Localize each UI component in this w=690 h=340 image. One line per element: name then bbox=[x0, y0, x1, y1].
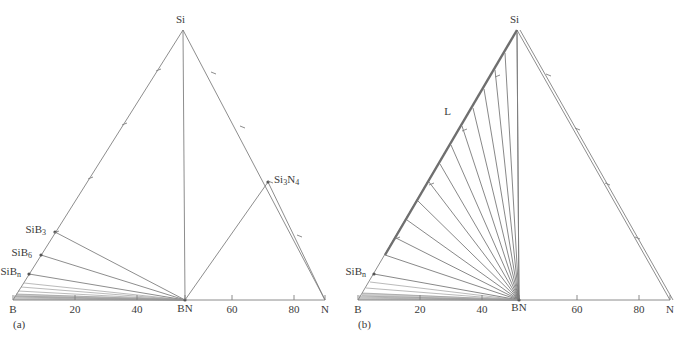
edge-ticks-b bbox=[358, 74, 670, 300]
panel-caption-b: (b) bbox=[358, 319, 371, 330]
panel-caption-a: (a) bbox=[13, 319, 25, 330]
axis-tick-40: 40 bbox=[132, 304, 143, 315]
compound-markers-a bbox=[27, 180, 269, 301]
point-sib6 bbox=[39, 253, 42, 256]
point-si3n4 bbox=[266, 180, 269, 183]
edge-si-n-b2 bbox=[520, 30, 673, 300]
tie-si3n4-bn bbox=[185, 182, 268, 300]
edge-si-n bbox=[183, 30, 325, 300]
axis-tick-b-b: B bbox=[354, 304, 361, 315]
compound-label-sibn-b: SiBn bbox=[345, 266, 366, 277]
liquidus-label: L bbox=[444, 106, 451, 117]
axis-tick-80-b: 80 bbox=[634, 304, 645, 315]
axis-tick-60-b: 60 bbox=[572, 304, 583, 315]
compound-label-sib6: SiB6 bbox=[11, 247, 32, 258]
axis-tick-b: B bbox=[9, 304, 16, 315]
axis-tick-20: 20 bbox=[70, 304, 81, 315]
panel-a: Si SiB3 SiB6 SiBn Si3N4 B 20 40 BN 60 80… bbox=[0, 0, 345, 340]
compound-label-si3n4: Si3N4 bbox=[274, 174, 299, 185]
compound-label-sibn: SiBn bbox=[0, 266, 21, 277]
tie-si-bn bbox=[183, 30, 185, 300]
point-sibn bbox=[27, 272, 30, 275]
axis-tick-20-b: 20 bbox=[415, 304, 426, 315]
panel-b-graphic bbox=[345, 0, 690, 340]
vertex-label-si-b: Si bbox=[510, 14, 519, 25]
edge-si-n-b bbox=[517, 30, 670, 300]
tie-sib3-bn bbox=[55, 232, 185, 300]
liquidus-curve bbox=[385, 30, 517, 255]
vertex-label-si: Si bbox=[176, 14, 185, 25]
axis-tick-n-b: N bbox=[666, 304, 674, 315]
panel-a-graphic bbox=[0, 0, 345, 340]
axis-tick-bn-b: BN bbox=[511, 302, 526, 313]
axis-tick-80: 80 bbox=[289, 304, 300, 315]
point-sibn-b bbox=[372, 272, 375, 275]
axis-tick-n: N bbox=[321, 304, 329, 315]
compound-label-sib3: SiB3 bbox=[25, 224, 46, 235]
panel-b: Si L SiBn B 20 40 BN 60 80 N (b) bbox=[345, 0, 690, 340]
axis-tick-40-b: 40 bbox=[477, 304, 488, 315]
tie-line-fan-b bbox=[374, 33, 519, 300]
axis-tick-bn: BN bbox=[177, 303, 192, 314]
axis-tick-60: 60 bbox=[227, 304, 238, 315]
ternary-phase-diagram-figure: Si SiB3 SiB6 SiBn Si3N4 B 20 40 BN 60 80… bbox=[0, 0, 690, 340]
tie-si3n4-n bbox=[268, 182, 325, 300]
